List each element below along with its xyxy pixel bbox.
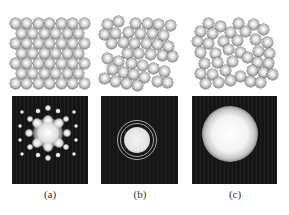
diffraction-spot <box>36 109 41 114</box>
atom-sphere-a <box>56 58 67 69</box>
atom-sphere-c <box>264 48 275 59</box>
diffraction-spot <box>27 116 33 122</box>
diffraction-pattern-b <box>101 96 178 184</box>
atom-sphere-b <box>141 38 152 49</box>
atom-sphere-b <box>102 19 113 30</box>
atom-sphere-c <box>240 26 251 37</box>
atom-sphere-a <box>67 58 78 69</box>
atom-sphere-a <box>67 18 78 29</box>
atom-sphere-b <box>167 51 178 62</box>
atom-sphere-a <box>16 28 27 39</box>
atom-sphere-c <box>207 28 218 39</box>
atom-sphere-c <box>267 69 278 80</box>
atom-sphere-c <box>195 68 206 79</box>
atom-sphere-a <box>62 48 73 59</box>
diffraction-spot <box>32 118 42 128</box>
diffraction-spot <box>72 110 76 114</box>
atom-sphere-b <box>110 76 121 87</box>
atom-sphere-c <box>262 37 273 48</box>
atom-sphere-c <box>199 58 210 69</box>
atom-sphere-c <box>203 38 214 49</box>
atom-sphere-b <box>122 48 133 59</box>
atom-sphere-b <box>118 67 129 78</box>
diffraction-spot <box>72 152 76 156</box>
atom-sphere-a <box>67 38 78 49</box>
atom-sphere-b <box>126 58 137 69</box>
diffraction-spot <box>18 124 22 128</box>
atom-sphere-a <box>44 38 55 49</box>
atom-sphere-b <box>132 80 143 91</box>
panel-label-a: (a) <box>44 188 56 200</box>
atom-sphere-a <box>21 38 32 49</box>
atom-sphere-c <box>258 24 269 35</box>
diffuse-halo <box>202 106 258 162</box>
diffraction-spot <box>63 116 69 122</box>
atom-sphere-b <box>123 27 134 38</box>
atom-sphere-c <box>213 77 224 88</box>
atom-sphere-a <box>27 68 38 79</box>
diffraction-spot <box>74 138 78 142</box>
diffraction-spot <box>63 129 71 137</box>
atom-sphere-a <box>33 58 44 69</box>
atom-sphere-a <box>33 18 44 29</box>
atom-sphere-b <box>129 38 140 49</box>
diffraction-spot <box>45 105 51 111</box>
atom-sphere-a <box>62 28 73 39</box>
atom-sphere-a <box>39 68 50 79</box>
atom-sphere-a <box>56 38 67 49</box>
atom-sphere-c <box>247 65 258 76</box>
atom-sphere-b <box>145 49 156 60</box>
atom-sphere-a <box>16 48 27 59</box>
atom-sphere-a <box>73 48 84 59</box>
atom-sphere-b <box>147 28 158 39</box>
atom-sphere-c <box>245 76 256 87</box>
diffraction-spot <box>63 144 69 150</box>
diffraction-spot <box>32 138 42 148</box>
atom-sphere-b <box>152 76 163 87</box>
atom-sphere-c <box>225 75 236 86</box>
atom-sphere-a <box>33 78 44 89</box>
atom-sphere-b <box>165 20 176 31</box>
atom-sphere-b <box>137 60 148 71</box>
atom-sphere-a <box>27 28 38 39</box>
atom-sphere-b <box>121 78 132 89</box>
atom-sphere-a <box>33 38 44 49</box>
atom-sphere-a <box>27 48 38 59</box>
atom-sphere-c <box>223 44 234 55</box>
atom-sphere-b <box>110 28 121 39</box>
atom-sphere-c <box>195 26 206 37</box>
diffraction-pattern-c <box>192 96 277 184</box>
atom-sphere-a <box>10 58 21 69</box>
atom-sphere-c <box>220 65 231 76</box>
atom-sphere-a <box>44 58 55 69</box>
diffraction-spot <box>56 153 61 158</box>
atom-sphere-a <box>73 68 84 79</box>
atom-sphere-a <box>16 68 27 79</box>
atom-sphere-a <box>50 28 61 39</box>
diffraction-spot <box>18 138 22 142</box>
atom-sphere-b <box>106 38 117 49</box>
atom-sphere-a <box>56 78 67 89</box>
atom-sphere-b <box>133 48 144 59</box>
diffraction-spot <box>20 152 24 156</box>
atom-sphere-a <box>44 18 55 29</box>
diffraction-spot <box>43 142 53 152</box>
panel-label-c: (c) <box>229 188 241 200</box>
diffraction-spot <box>36 153 41 158</box>
atom-sphere-a <box>10 78 21 89</box>
atom-sphere-b <box>152 39 163 50</box>
atom-sphere-a <box>21 18 32 29</box>
atom-sphere-a <box>21 58 32 69</box>
atom-sphere-a <box>79 18 90 29</box>
atom-sphere-c <box>192 36 203 47</box>
atom-sphere-a <box>44 78 55 89</box>
diffraction-spot <box>74 124 78 128</box>
diffraction-spot <box>43 115 53 125</box>
atom-sphere-a <box>10 38 21 49</box>
atom-sphere-a <box>50 68 61 79</box>
diffraction-spot <box>25 129 33 137</box>
atom-sphere-a <box>79 58 90 69</box>
atom-sphere-b <box>157 50 168 61</box>
atom-sphere-a <box>21 78 32 89</box>
atom-sphere-a <box>56 18 67 29</box>
